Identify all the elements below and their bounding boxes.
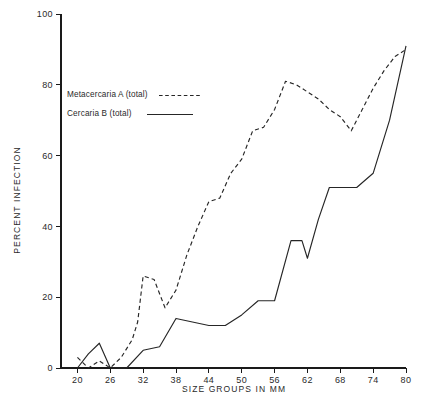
x-axis-tick-label: 26: [105, 375, 116, 385]
x-axis-tick-label: 20: [72, 375, 83, 385]
x-axis-tick-label: 80: [401, 375, 412, 385]
chart-legend: Metacercaria A (total) Cercaria B (total…: [67, 90, 202, 118]
y-axis-tick-label: 40: [42, 222, 53, 232]
y-axis-tick-label: 20: [42, 292, 53, 302]
x-axis-tick-label: 38: [171, 375, 182, 385]
y-axis-tick-label: 0: [48, 363, 53, 373]
chart-canvas: 020406080100 2026323844505662687480 SIZE…: [0, 0, 428, 401]
legend-label-metacercaria-a: Metacercaria A (total): [67, 90, 148, 99]
y-axis-title: PERCENT INFECTION: [12, 146, 22, 253]
legend-label-cercaria-b: Cercaria B (total): [67, 109, 132, 118]
y-axis-tick-label: 80: [42, 80, 53, 90]
x-axis-ticks: [77, 368, 406, 373]
y-axis-ticks: [56, 14, 61, 368]
y-axis-tick-label: 100: [37, 9, 53, 19]
x-axis-tick-label: 32: [138, 375, 149, 385]
infection-line-chart: 020406080100 2026323844505662687480 SIZE…: [0, 0, 428, 401]
x-axis-title: SIZE GROUPS IN MM: [182, 384, 286, 394]
y-axis-tick-label: 60: [42, 151, 53, 161]
y-axis-tick-labels: 020406080100: [37, 9, 53, 373]
x-axis-tick-label: 62: [302, 375, 313, 385]
x-axis-tick-label: 74: [368, 375, 379, 385]
x-axis-tick-label: 68: [335, 375, 346, 385]
